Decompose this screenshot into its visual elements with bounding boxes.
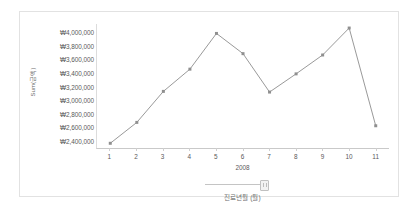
x-axis-tick-mark (269, 148, 270, 151)
y-axis-tick-label: ₩3,200,000 (60, 83, 94, 90)
x-axis-tick-mark (349, 148, 350, 151)
x-axis-title: 진료년월 (월) (96, 192, 389, 202)
x-axis-tick-label: 5 (214, 153, 218, 160)
x-axis-tick-label: 8 (294, 153, 298, 160)
x-axis-tick-label: 11 (372, 153, 379, 160)
x-axis-tick-label: 7 (267, 153, 271, 160)
x-axis-tick-label: 9 (321, 153, 325, 160)
x-axis-tick-label: 2 (134, 153, 138, 160)
x-axis-tick-label: 4 (187, 153, 191, 160)
data-point-marker[interactable] (268, 91, 271, 94)
x-axis-tick-mark (136, 148, 137, 151)
plot-area (96, 24, 389, 149)
x-axis-tick-mark (163, 148, 164, 151)
y-axis-tick-label: ₩3,800,000 (60, 42, 94, 49)
x-axis-tick-mark (376, 148, 377, 151)
x-axis-tick-mark (243, 148, 244, 151)
y-axis-tick-label: ₩4,000,000 (60, 29, 94, 36)
x-axis-tick-mark (189, 148, 190, 151)
data-point-marker[interactable] (295, 72, 298, 75)
x-axis-tick-label: 3 (161, 153, 165, 160)
x-axis-tick-label: 1 (108, 153, 112, 160)
x-axis-tick-mark (216, 148, 217, 151)
y-axis-tick-label: ₩2,400,000 (60, 137, 94, 144)
x-axis-tick-label-group: 1234567891011 (96, 151, 389, 162)
data-point-marker[interactable] (109, 142, 112, 145)
data-point-marker[interactable] (374, 124, 377, 127)
year-filter-track[interactable] (205, 184, 267, 185)
x-axis-tick-mark (109, 148, 110, 151)
data-point-marker[interactable] (242, 52, 245, 55)
y-axis-tick-label: ₩2,600,000 (60, 124, 94, 131)
x-axis-tick-mark (322, 148, 323, 151)
y-axis-tick-label: ₩2,800,000 (60, 110, 94, 117)
data-point-marker[interactable] (188, 68, 191, 71)
y-axis-tick-label: ₩3,400,000 (60, 69, 94, 76)
chart-frame: Sum(금액) ₩4,000,000₩3,800,000₩3,600,000₩3… (19, 11, 399, 197)
data-point-marker[interactable] (321, 54, 324, 57)
data-point-marker[interactable] (348, 27, 351, 30)
data-line (110, 28, 375, 143)
data-point-marker[interactable] (162, 90, 165, 93)
year-filter-handle[interactable] (260, 180, 269, 191)
line-series-svg (97, 24, 389, 148)
x-axis-group-label-year: 2008 (96, 164, 389, 171)
year-filter-slider[interactable] (205, 179, 285, 190)
data-point-marker[interactable] (135, 121, 138, 124)
data-point-marker[interactable] (215, 32, 218, 35)
x-axis-tick-mark (296, 148, 297, 151)
y-axis-tick-label: ₩3,600,000 (60, 56, 94, 63)
y-axis-tick-label: ₩3,000,000 (60, 97, 94, 104)
x-axis-tick-label: 6 (241, 153, 245, 160)
x-axis-tick-label: 10 (345, 153, 352, 160)
y-axis-tick-label-group: ₩4,000,000₩3,800,000₩3,600,000₩3,400,000… (32, 28, 94, 146)
